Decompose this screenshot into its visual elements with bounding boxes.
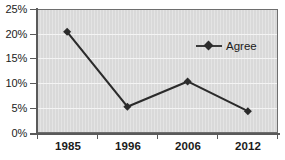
y-axis-line: [36, 8, 38, 134]
gridline-5: [37, 108, 277, 109]
x-tick-1: [97, 133, 98, 139]
y-axis-label-10: 10%: [0, 77, 27, 89]
x-axis-label-2012: 2012: [218, 140, 278, 152]
gridline-20: [37, 34, 277, 35]
plot-texture: [37, 10, 277, 132]
y-axis-label-5: 5%: [0, 102, 27, 114]
y-tick-20: [30, 34, 36, 35]
x-tick-start: [37, 133, 38, 139]
diamond-marker-icon: [204, 41, 214, 51]
y-tick-25: [30, 9, 36, 10]
y-axis-label-25: 25%: [0, 3, 27, 15]
x-axis-label-2006: 2006: [158, 140, 218, 152]
y-axis-label-0: 0%: [0, 127, 27, 139]
chart-container: 25% 20% 15% 10% 5% 0% 1985 1996 2006 201…: [0, 0, 285, 160]
gridline-15: [37, 58, 277, 59]
x-axis-line: [30, 133, 280, 135]
y-axis-label-20: 20%: [0, 28, 27, 40]
x-tick-3: [217, 133, 218, 139]
legend-label-agree: Agree: [226, 40, 257, 52]
y-axis-label-15: 15%: [0, 52, 27, 64]
x-tick-2: [157, 133, 158, 139]
y-tick-0: [30, 133, 36, 134]
y-tick-5: [30, 108, 36, 109]
y-tick-15: [30, 58, 36, 59]
y-tick-10: [30, 83, 36, 84]
legend-marker-agree: [196, 40, 222, 52]
gridline-10: [37, 83, 277, 84]
legend: Agree: [196, 40, 257, 52]
x-axis-label-1985: 1985: [38, 140, 98, 152]
x-tick-end: [277, 133, 278, 139]
x-axis-label-1996: 1996: [98, 140, 158, 152]
plot-area: [36, 9, 278, 133]
